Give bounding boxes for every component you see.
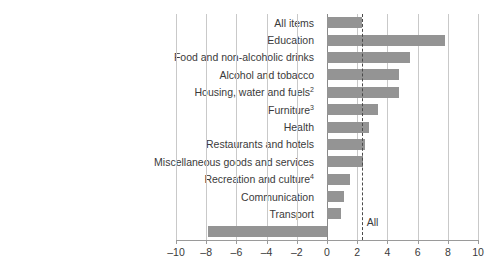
bar: [327, 35, 445, 46]
x-axis-tick-label: –8: [200, 246, 212, 258]
x-axis-tick-label: –2: [291, 246, 303, 258]
x-axis-tick-label: –6: [231, 246, 243, 258]
bar: [327, 104, 378, 115]
gridline: [176, 14, 177, 240]
x-axis-tick: [418, 240, 419, 244]
bar: [327, 87, 399, 98]
bar: [327, 17, 362, 28]
x-axis-tick: [327, 240, 328, 244]
x-axis-tick: [206, 240, 207, 244]
bar: [327, 191, 344, 202]
gridline: [206, 14, 207, 240]
x-axis-tick: [387, 240, 388, 244]
x-axis-tick-label: 0: [324, 246, 330, 258]
all-items-reference-line: [362, 14, 363, 240]
bar: [327, 208, 341, 219]
gridline: [418, 14, 419, 240]
x-axis-tick: [267, 240, 268, 244]
gridline: [387, 14, 388, 240]
plot-area: –10–8–6–4–20246810 All: [176, 14, 478, 240]
bar: [208, 226, 327, 237]
all-reference-label: All: [367, 216, 379, 228]
bar: [327, 69, 399, 80]
x-axis-tick: [297, 240, 298, 244]
bar: [327, 139, 365, 150]
x-axis-tick-label: 8: [445, 246, 451, 258]
bar: [327, 122, 369, 133]
gridline: [267, 14, 268, 240]
x-axis-tick: [357, 240, 358, 244]
x-axis-tick-label: 6: [415, 246, 421, 258]
x-axis-tick-label: 4: [384, 246, 390, 258]
bar: [327, 174, 350, 185]
gridline: [297, 14, 298, 240]
x-axis-tick: [176, 240, 177, 244]
bar: [327, 52, 410, 63]
x-axis-tick: [478, 240, 479, 244]
gridline: [448, 14, 449, 240]
bar: [327, 156, 363, 167]
gridline: [478, 14, 479, 240]
x-axis-tick: [448, 240, 449, 244]
bar-chart: All itemsEducationFood and non-alcoholic…: [0, 0, 495, 271]
gridline: [236, 14, 237, 240]
x-axis-tick: [236, 240, 237, 244]
x-axis-tick-label: 2: [354, 246, 360, 258]
x-axis-tick-label: –10: [167, 246, 185, 258]
x-axis-tick-label: –4: [261, 246, 273, 258]
x-axis-tick-label: 10: [472, 246, 484, 258]
